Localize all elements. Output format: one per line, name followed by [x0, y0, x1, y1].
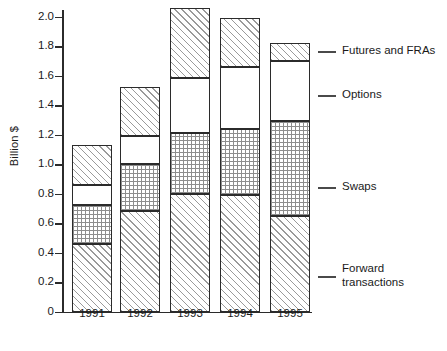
bar-segment[interactable]	[270, 216, 310, 311]
legend-label: Forwardtransactions	[342, 262, 447, 289]
bar-segment[interactable]	[170, 194, 210, 312]
x-axis-tick-label: 1995	[260, 307, 320, 319]
y-axis-tick-label: 1.6	[14, 70, 54, 82]
bar-segment[interactable]	[220, 129, 260, 195]
chart-container: Billion $ 00.20.40.60.81.01.21.41.61.82.…	[0, 0, 447, 351]
legend-label-line: transactions	[342, 276, 447, 290]
legend-leader-line	[318, 187, 336, 189]
y-axis-tick-label: 0.6	[14, 217, 54, 229]
bar-segment[interactable]	[72, 244, 112, 311]
bar-segment[interactable]	[170, 78, 210, 133]
bar-1992[interactable]	[120, 87, 160, 311]
legend-leader-line	[318, 276, 336, 278]
legend-leader-line	[318, 95, 336, 97]
bar-segment[interactable]	[270, 43, 310, 61]
bar-1993[interactable]	[170, 8, 210, 312]
y-axis-tick-label: 1.8	[14, 40, 54, 52]
y-axis-line	[62, 10, 64, 313]
y-axis-tick	[55, 135, 62, 137]
bar-segment[interactable]	[220, 67, 260, 130]
y-axis-tick	[55, 105, 62, 107]
y-axis-tick-label: 1.2	[14, 129, 54, 141]
bar-1995[interactable]	[270, 43, 310, 311]
y-axis-tick	[55, 253, 62, 255]
plot-area: 00.20.40.60.81.01.21.41.61.82.0	[62, 10, 312, 313]
legend-label: Futures and FRAs	[342, 44, 447, 58]
bar-1994[interactable]	[220, 18, 260, 312]
y-axis-tick-label: 1.0	[14, 158, 54, 170]
bar-segment[interactable]	[120, 164, 160, 211]
bar-segment[interactable]	[120, 211, 160, 311]
y-axis-tick	[55, 17, 62, 19]
legend-label-line: Forward	[342, 262, 447, 276]
bar-segment[interactable]	[72, 185, 112, 204]
bar-segment[interactable]	[220, 18, 260, 67]
y-axis-tick	[55, 46, 62, 48]
bar-segment[interactable]	[72, 145, 112, 186]
bar-segment[interactable]	[270, 121, 310, 216]
bar-segment[interactable]	[72, 205, 112, 245]
y-axis-title: Billion $	[8, 106, 20, 186]
y-axis-tick-label: 0.2	[14, 276, 54, 288]
bar-segment[interactable]	[170, 8, 210, 78]
legend-label-line: Futures and FRAs	[342, 44, 447, 58]
bar-1991[interactable]	[72, 145, 112, 312]
y-axis-tick	[55, 312, 62, 314]
y-axis-tick-label: 0	[14, 306, 54, 318]
bar-segment[interactable]	[120, 87, 160, 136]
y-axis-tick-label: 0.8	[14, 188, 54, 200]
y-axis-tick-label: 0.4	[14, 247, 54, 259]
y-axis-tick	[55, 164, 62, 166]
legend-label-line: Options	[342, 88, 447, 102]
legend-label: Options	[342, 88, 447, 102]
y-axis-tick-label: 2.0	[14, 11, 54, 23]
legend-label-line: Swaps	[342, 180, 447, 194]
y-axis-tick	[55, 76, 62, 78]
bar-segment[interactable]	[120, 136, 160, 164]
y-axis-tick-label: 1.4	[14, 99, 54, 111]
bar-segment[interactable]	[270, 61, 310, 121]
y-axis-tick	[55, 282, 62, 284]
legend-label: Swaps	[342, 180, 447, 194]
bar-segment[interactable]	[220, 195, 260, 312]
bar-segment[interactable]	[170, 133, 210, 193]
y-axis-tick	[55, 194, 62, 196]
y-axis-tick	[55, 223, 62, 225]
legend-leader-line	[318, 51, 336, 53]
